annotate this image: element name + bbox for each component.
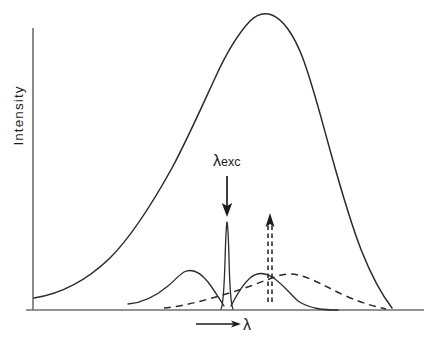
spectroscopy-figure: Intensity λexc λ [0,0,428,352]
exc-subscript: exc [221,155,240,169]
raman-shift-marker-arrowhead [266,213,275,227]
stokes-raman-band-right-curve [231,274,338,310]
plot-canvas [0,0,428,352]
excitation-wavelength-label: λexc [213,152,240,170]
y-axis-label: Intensity [11,68,26,164]
x-axis-label: λ [243,316,251,334]
rayleigh-scattering-peak-curve [221,222,233,309]
stokes-raman-band-left-curve [128,270,224,306]
lambda-symbol: λ [213,152,221,169]
